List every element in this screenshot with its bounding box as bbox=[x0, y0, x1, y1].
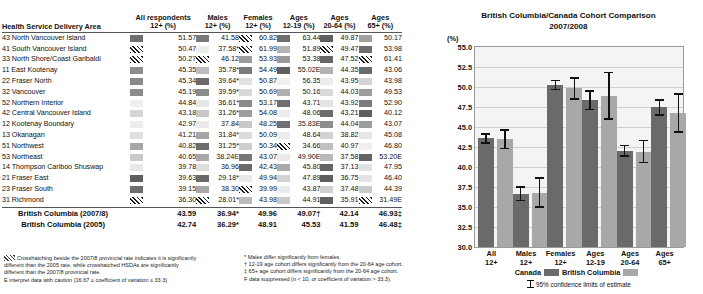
swatch-cell bbox=[130, 54, 144, 65]
y-axis-tick: 37.5 bbox=[458, 183, 472, 192]
rate-value: 47.89 bbox=[291, 173, 320, 184]
rate-swatch bbox=[359, 100, 372, 107]
swatch-cell bbox=[130, 162, 144, 173]
x-tick-line2: 12+ bbox=[509, 258, 544, 267]
summary-label: British Columbia (2007/8) bbox=[2, 207, 130, 219]
error-bar-canada bbox=[589, 90, 591, 110]
rate-swatch bbox=[359, 35, 372, 42]
hsda-table-panel: Health Service Delivery Area All respond… bbox=[2, 14, 402, 231]
error-bar-canada bbox=[659, 99, 661, 116]
swatch-cell bbox=[239, 108, 253, 119]
summary-swatch-cell bbox=[196, 207, 210, 219]
swatch-cell bbox=[320, 32, 334, 43]
swatch-cell bbox=[239, 195, 253, 206]
swatch-cell bbox=[359, 173, 373, 184]
rate-value: 35.78* bbox=[210, 65, 239, 76]
swatch-cell bbox=[239, 65, 253, 76]
swatch-cell bbox=[277, 162, 291, 173]
rate-value: 39.99 bbox=[253, 184, 277, 195]
rate-value: 61.99 bbox=[253, 44, 277, 55]
col-sub-all: 12+ (%) bbox=[130, 22, 196, 30]
rate-value: 35.83E bbox=[291, 119, 320, 130]
rate-swatch bbox=[359, 186, 372, 193]
swatch-cell bbox=[277, 152, 291, 163]
rate-value: 29.18* bbox=[210, 173, 239, 184]
x-tick-line1: Ages bbox=[613, 249, 648, 258]
rate-swatch-crosshatched bbox=[130, 56, 143, 63]
swatch-cell bbox=[277, 32, 291, 43]
hsda-name: 51 Northwest bbox=[2, 141, 130, 152]
error-bar-bc bbox=[539, 177, 541, 207]
rate-value: 50.27 bbox=[144, 54, 196, 65]
swatch-cell bbox=[277, 195, 291, 206]
error-bar-bc bbox=[678, 93, 680, 132]
rate-swatch bbox=[130, 175, 143, 182]
swatch-cell bbox=[196, 184, 210, 195]
y-axis-tick: 42.5 bbox=[458, 143, 472, 152]
rate-value: 50.34 bbox=[253, 141, 277, 152]
table-row: 33 North Shore/Coast Garibaldi50.2746.12… bbox=[2, 54, 402, 65]
rate-swatch bbox=[277, 121, 290, 128]
legend-key-bc bbox=[623, 269, 638, 276]
chart-subtitle: 2007/2008 bbox=[434, 21, 703, 32]
summary-row: British Columbia (2007/8)43.5936.94*49.9… bbox=[2, 207, 402, 219]
rate-swatch bbox=[196, 143, 209, 150]
rate-swatch bbox=[320, 154, 333, 161]
table-body: 43 North Vancouver Island51.5741.5860.82… bbox=[2, 32, 402, 230]
x-tick-line1: All bbox=[474, 249, 509, 258]
rate-swatch bbox=[239, 56, 252, 63]
swatch-cell bbox=[239, 76, 253, 87]
rate-value: 42.97 bbox=[144, 119, 196, 130]
hsda-name: 32 Vancouver bbox=[2, 87, 130, 98]
table-row: 51 Northwest40.8231.25*50.3434.6640.9746… bbox=[2, 141, 402, 152]
rate-swatch bbox=[196, 78, 209, 85]
rate-value: 37.58* bbox=[210, 44, 239, 55]
rate-swatch bbox=[320, 78, 333, 85]
swatch-cell bbox=[320, 173, 334, 184]
error-bar-canada bbox=[485, 133, 487, 143]
swatch-cell bbox=[239, 44, 253, 55]
x-tick-line2: 12+ bbox=[474, 258, 509, 267]
table-row: 43 North Vancouver Island51.5741.5860.82… bbox=[2, 32, 402, 43]
rate-value: 37.13 bbox=[334, 162, 358, 173]
swatch-cell bbox=[130, 32, 144, 43]
rate-swatch bbox=[130, 132, 143, 139]
swatch-cell bbox=[277, 184, 291, 195]
error-bar-wrap bbox=[478, 133, 494, 247]
rate-value: 41.58 bbox=[210, 32, 239, 43]
rate-swatch bbox=[130, 110, 143, 117]
rate-swatch bbox=[277, 78, 290, 85]
rate-swatch bbox=[277, 35, 290, 42]
swatch-cell bbox=[130, 130, 144, 141]
rate-value: 53.20E bbox=[373, 152, 402, 163]
rate-value: 40.12 bbox=[373, 108, 402, 119]
bar-group bbox=[648, 47, 683, 247]
swatch-cell bbox=[320, 130, 334, 141]
swatch-cell bbox=[196, 87, 210, 98]
rate-swatch bbox=[277, 89, 290, 96]
legend-key-canada bbox=[544, 269, 559, 276]
swatch-cell bbox=[320, 76, 334, 87]
rate-value: 53.17 bbox=[253, 98, 277, 109]
swatch-cell bbox=[196, 141, 210, 152]
rate-value: 37.84 bbox=[210, 119, 239, 130]
error-bar-canada bbox=[520, 186, 522, 201]
swatch-cell bbox=[277, 65, 291, 76]
rate-swatch bbox=[196, 67, 209, 74]
rate-swatch bbox=[320, 132, 333, 139]
error-bar-canada bbox=[624, 145, 626, 157]
rate-swatch bbox=[196, 154, 209, 161]
hsda-name: 52 Northern Interior bbox=[2, 98, 130, 109]
rate-value: 28.01* bbox=[210, 195, 239, 206]
rate-value: 39.59* bbox=[210, 87, 239, 98]
rate-value: 31.84* bbox=[210, 130, 239, 141]
rate-value: 49.94 bbox=[253, 173, 277, 184]
bar-group bbox=[544, 47, 579, 247]
swatch-cell bbox=[320, 141, 334, 152]
col-sub-ages-65: 65+ (%) bbox=[359, 22, 402, 30]
table-row: 41 South Vancouver Island50.4737.58*61.9… bbox=[2, 44, 402, 55]
rate-value: 43.06 bbox=[373, 65, 402, 76]
swatch-cell bbox=[320, 195, 334, 206]
swatch-cell bbox=[359, 162, 373, 173]
summary-value: 45.53 bbox=[291, 219, 320, 231]
